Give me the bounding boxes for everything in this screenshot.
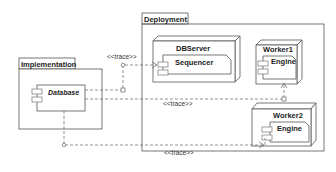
component-label-engine: Engine — [271, 57, 296, 66]
package-label-implementation: Implementation — [21, 60, 77, 69]
trace-label: <<trace>> — [163, 100, 193, 107]
node-top-face — [252, 103, 316, 109]
connector-handle — [121, 88, 125, 92]
component-port-icon — [32, 89, 42, 94]
component-port-icon — [258, 61, 268, 66]
trace-line — [85, 84, 284, 99]
trace-label: <<trace>> — [164, 149, 194, 156]
node-worker1[interactable]: Worker1 Engine — [256, 40, 302, 84]
node-label-dbserver: DBServer — [176, 44, 210, 53]
component-port-icon — [158, 62, 168, 67]
trace-label: <<trace>> — [107, 53, 137, 60]
trace-edge-worker1[interactable] — [85, 83, 287, 101]
connector-handle — [62, 143, 66, 147]
component-port-icon — [262, 127, 272, 132]
component-label-engine: Engine — [277, 124, 302, 133]
component-label-sequencer: Sequencer — [175, 58, 213, 67]
node-side-face — [297, 40, 302, 84]
connector-handle — [121, 63, 125, 67]
deployment-diagram: Implementation Database Deployment DBSer… — [0, 0, 336, 172]
node-worker2[interactable]: Worker2 Engine — [252, 103, 316, 146]
node-top-face — [153, 36, 240, 41]
node-dbserver[interactable]: DBServer Sequencer — [153, 36, 240, 82]
connector-handle — [282, 97, 286, 101]
component-port-icon — [158, 70, 168, 75]
component-port-icon — [258, 69, 268, 74]
node-label-worker2: Worker2 — [273, 111, 303, 120]
node-side-face — [311, 103, 316, 146]
node-side-face — [235, 36, 240, 82]
component-port-icon — [262, 135, 272, 140]
artifact-database[interactable]: Database — [32, 85, 85, 111]
node-label-worker1: Worker1 — [263, 45, 293, 54]
artifact-label-database: Database — [48, 89, 79, 96]
package-label-deployment: Deployment — [144, 15, 187, 24]
component-port-icon — [32, 97, 42, 102]
